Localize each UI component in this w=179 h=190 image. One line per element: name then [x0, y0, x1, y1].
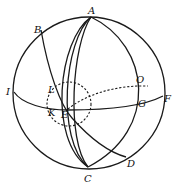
label-o: O: [136, 74, 144, 85]
label-e: E: [60, 109, 69, 120]
label-l: L: [47, 84, 55, 95]
meridian-right: [88, 17, 139, 167]
label-i: I: [5, 86, 11, 97]
label-b: B: [33, 24, 41, 35]
label-f: F: [163, 93, 172, 104]
label-a: A: [87, 5, 95, 16]
label-c: C: [84, 173, 92, 184]
sphere-diagram: A B I L K E O G F D C: [0, 0, 179, 190]
dashed-arc-e-o: [68, 86, 148, 109]
label-k: K: [47, 107, 56, 118]
label-d: D: [126, 158, 135, 169]
outer-circle: [13, 17, 165, 169]
label-g: G: [138, 98, 146, 109]
